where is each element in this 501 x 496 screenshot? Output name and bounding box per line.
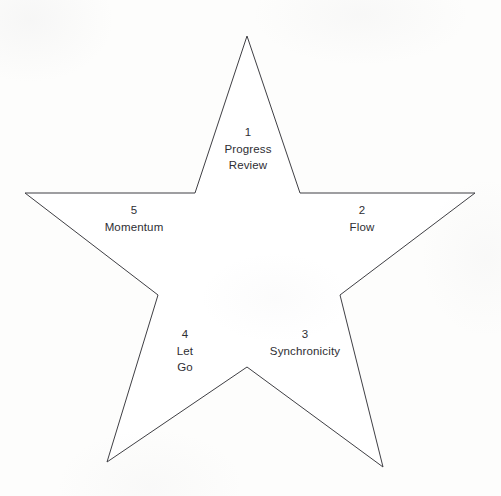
segment-number-2: 2 <box>350 202 375 219</box>
star-segment-label-3: 3 Synchronicity <box>270 326 340 359</box>
segment-text-1-line1: Progress <box>224 141 271 158</box>
segment-text-1-line2: Review <box>224 157 271 174</box>
segment-text-4-line1: Let <box>177 343 193 360</box>
star-diagram: 1 Progress Review 2 Flow 3 Synchronicity… <box>0 0 501 496</box>
star-outline-path <box>25 36 475 467</box>
segment-text-3-line1: Synchronicity <box>270 343 340 360</box>
segment-text-4-line2: Go <box>177 359 193 376</box>
segment-number-5: 5 <box>105 202 164 219</box>
segment-number-3: 3 <box>270 326 340 343</box>
segment-text-2-line1: Flow <box>350 219 375 236</box>
star-shape-svg <box>0 0 501 496</box>
segment-number-4: 4 <box>177 326 193 343</box>
star-segment-label-1: 1 Progress Review <box>224 124 271 174</box>
star-segment-label-5: 5 Momentum <box>105 202 164 235</box>
star-segment-label-2: 2 Flow <box>350 202 375 235</box>
segment-text-5-line1: Momentum <box>105 219 164 236</box>
segment-number-1: 1 <box>224 124 271 141</box>
star-segment-label-4: 4 Let Go <box>177 326 193 376</box>
